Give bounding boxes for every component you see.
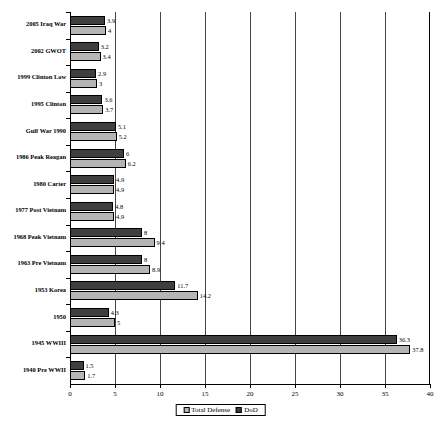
legend-entry-dod: DoD	[236, 406, 258, 414]
bar-value-label: 9.4	[157, 238, 165, 247]
bar-value-label: 4.9	[116, 212, 124, 221]
y-tick	[66, 12, 70, 13]
bar-value-label: 3.7	[105, 105, 113, 114]
chart-row: 1977 Post Vietnam4.84.9	[0, 198, 441, 225]
x-tick	[295, 384, 296, 388]
bar-dod	[70, 308, 109, 317]
bar-total-defense	[70, 105, 103, 114]
category-label: 1995 Clinton	[0, 100, 66, 108]
x-tick-label: 25	[280, 390, 310, 398]
bar-value-label: 3.2	[101, 42, 109, 51]
bar-total-defense	[70, 159, 126, 168]
bar-dod	[70, 42, 99, 51]
bar-value-label: 8	[144, 255, 147, 264]
bar-value-label: 3	[99, 79, 102, 88]
bar-total-defense	[70, 238, 155, 247]
category-label: 1950	[0, 313, 66, 321]
bar-total-defense	[70, 291, 198, 300]
bar-dod	[70, 175, 114, 184]
bar-value-label: 3.9	[107, 16, 115, 25]
x-tick-label: 20	[235, 390, 265, 398]
chart-row: 2002 GWOT3.23.4	[0, 39, 441, 66]
x-tick-label: 35	[370, 390, 400, 398]
category-label: 1940 Pre WWII	[0, 366, 66, 374]
y-tick	[66, 65, 70, 66]
y-tick	[66, 171, 70, 172]
bar-value-label: 4.9	[116, 175, 124, 184]
bar-total-defense	[70, 132, 117, 141]
x-tick	[160, 384, 161, 388]
chart-row: 1980 Carter4.94.9	[0, 171, 441, 198]
chart-row: 1995 Clinton3.63.7	[0, 92, 441, 119]
x-tick	[205, 384, 206, 388]
bar-total-defense	[70, 212, 114, 221]
chart-row: 1940 Pre WWII1.51.7	[0, 357, 441, 384]
bar-dod	[70, 335, 397, 344]
category-label: 1980 Carter	[0, 180, 66, 188]
bar-dod	[70, 202, 113, 211]
x-tick	[250, 384, 251, 388]
y-tick	[66, 118, 70, 119]
bar-total-defense	[70, 318, 115, 327]
chart-row: Gulf War 19905.15.2	[0, 118, 441, 145]
y-tick	[66, 251, 70, 252]
y-tick	[66, 278, 70, 279]
y-tick	[66, 331, 70, 332]
y-tick	[66, 357, 70, 358]
bar-dod	[70, 16, 105, 25]
category-label: 2002 GWOT	[0, 47, 66, 55]
legend-swatch-icon-dod	[236, 407, 242, 413]
legend-label-dod: DoD	[244, 406, 258, 414]
bar-value-label: 3.6	[104, 95, 112, 104]
bar-dod	[70, 361, 84, 370]
bar-dod	[70, 149, 124, 158]
bar-total-defense	[70, 345, 410, 354]
chart-row: 2005 Iraq War3.94	[0, 12, 441, 39]
chart-legend: Total DefenseDoD	[175, 404, 266, 416]
bar-value-label: 3.4	[103, 52, 111, 61]
y-tick	[66, 304, 70, 305]
bar-value-label: 6	[126, 149, 129, 158]
x-tick-label: 0	[55, 390, 85, 398]
bar-value-label: 4.8	[115, 202, 123, 211]
bar-total-defense	[70, 265, 150, 274]
y-tick	[66, 225, 70, 226]
chart-row: 1986 Peak Reagan66.2	[0, 145, 441, 172]
y-tick	[66, 145, 70, 146]
x-tick	[385, 384, 386, 388]
chart-row: 1945 WWIII36.337.8	[0, 331, 441, 358]
bar-dod	[70, 69, 96, 78]
bar-value-label: 6.2	[128, 159, 136, 168]
category-label: 1953 Korea	[0, 286, 66, 294]
legend-swatch-icon-total-defense	[183, 407, 189, 413]
x-tick-label: 30	[325, 390, 355, 398]
bar-value-label: 4.9	[116, 185, 124, 194]
bar-value-label: 14.2	[200, 291, 211, 300]
x-tick	[70, 384, 71, 388]
bar-value-label: 5.2	[119, 132, 127, 141]
category-label: 1999 Clinton Low	[0, 73, 66, 81]
category-label: 2005 Iraq War	[0, 20, 66, 28]
legend-entry-total-defense: Total Defense	[183, 406, 230, 414]
bar-value-label: 36.3	[399, 335, 410, 344]
chart-row: 1953 Korea11.714.2	[0, 278, 441, 305]
bar-total-defense	[70, 371, 85, 380]
chart-row: 1968 Peak Vietnam89.4	[0, 225, 441, 252]
category-label: 1963 Pre Vietnam	[0, 259, 66, 267]
bar-value-label: 4.3	[111, 308, 119, 317]
bar-value-label: 11.7	[177, 281, 188, 290]
category-label: 1968 Peak Vietnam	[0, 233, 66, 241]
bar-dod	[70, 95, 102, 104]
category-label: 1986 Peak Reagan	[0, 153, 66, 161]
y-tick	[66, 92, 70, 93]
bar-value-label: 5	[117, 318, 120, 327]
chart-row: 1963 Pre Vietnam88.9	[0, 251, 441, 278]
bar-chart: 0510152025303540 2005 Iraq War3.942002 G…	[0, 0, 441, 428]
bar-total-defense	[70, 185, 114, 194]
category-label: Gulf War 1990	[0, 127, 66, 135]
category-label: 1977 Post Vietnam	[0, 206, 66, 214]
bar-value-label: 1.7	[87, 371, 95, 380]
y-tick	[66, 39, 70, 40]
x-tick-label: 40	[415, 390, 441, 398]
chart-row: 1999 Clinton Low2.93	[0, 65, 441, 92]
